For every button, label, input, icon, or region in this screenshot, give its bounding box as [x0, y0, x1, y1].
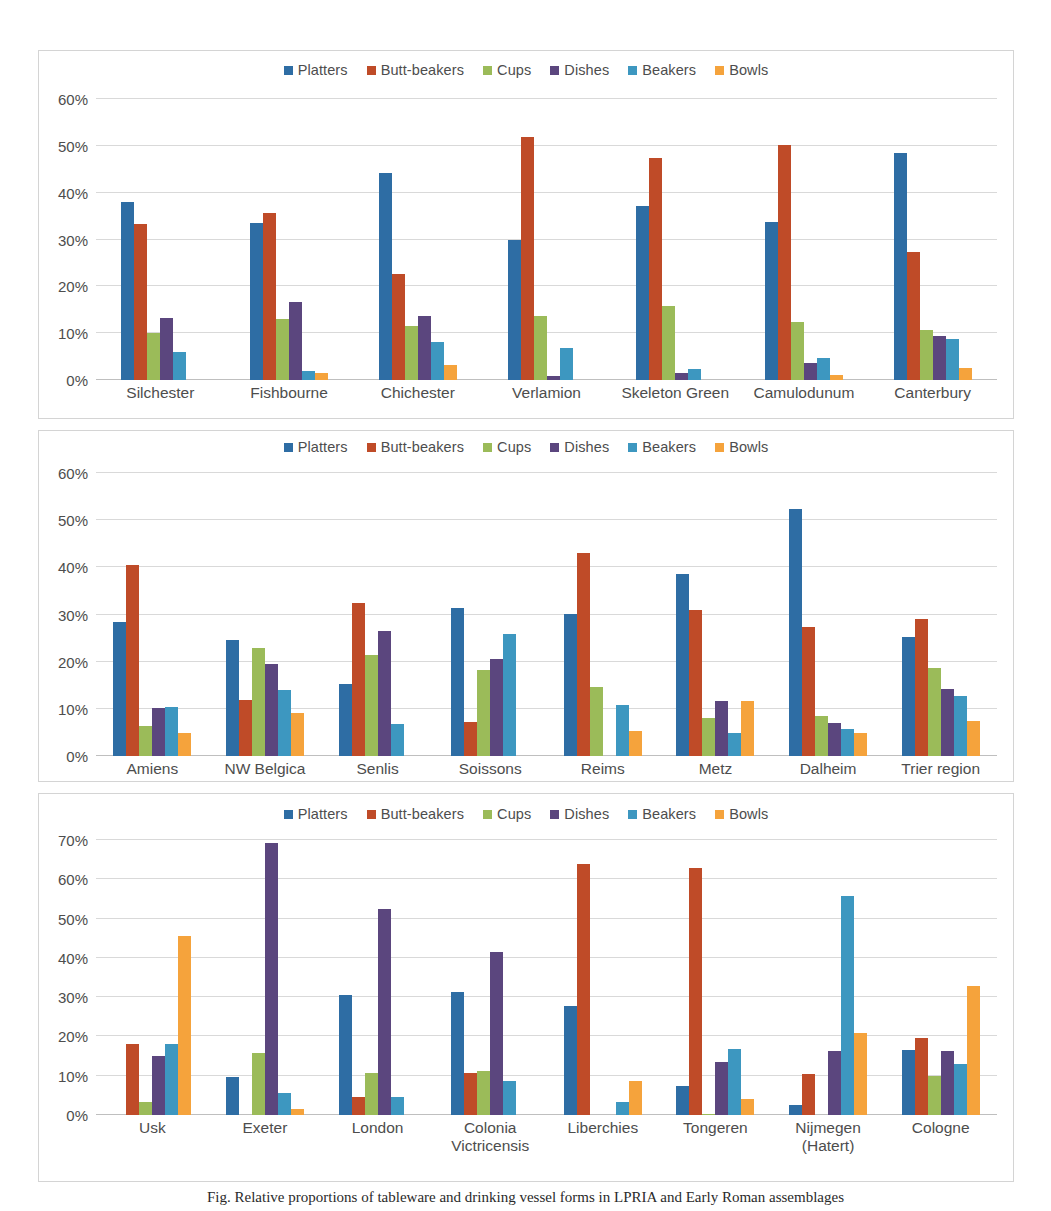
bar-bowls[interactable]	[741, 1099, 754, 1115]
bar-platters[interactable]	[379, 173, 392, 380]
bar-butt-beakers[interactable]	[352, 1097, 365, 1115]
bar-platters[interactable]	[226, 1077, 239, 1115]
bar-butt-beakers[interactable]	[464, 1073, 477, 1115]
bar-platters[interactable]	[636, 206, 649, 380]
bar-platters[interactable]	[250, 223, 263, 380]
bar-beakers[interactable]	[841, 729, 854, 756]
bar-dishes[interactable]	[547, 376, 560, 380]
bar-bowls[interactable]	[315, 373, 328, 380]
bar-beakers[interactable]	[431, 342, 444, 380]
bar-beakers[interactable]	[302, 371, 315, 380]
bar-dishes[interactable]	[828, 723, 841, 756]
bar-bowls[interactable]	[444, 365, 457, 380]
bar-beakers[interactable]	[278, 1093, 291, 1115]
bar-cups[interactable]	[252, 648, 265, 756]
bar-butt-beakers[interactable]	[802, 627, 815, 756]
bar-platters[interactable]	[676, 574, 689, 756]
bar-cups[interactable]	[139, 1102, 152, 1115]
bar-butt-beakers[interactable]	[577, 553, 590, 756]
bar-beakers[interactable]	[560, 348, 573, 380]
bar-platters[interactable]	[226, 640, 239, 756]
bar-beakers[interactable]	[954, 1064, 967, 1115]
bar-bowls[interactable]	[178, 733, 191, 756]
legend-item-platters[interactable]: Platters	[284, 440, 348, 455]
bar-butt-beakers[interactable]	[134, 224, 147, 380]
legend-item-beakers[interactable]: Beakers	[628, 440, 696, 455]
bar-platters[interactable]	[339, 995, 352, 1115]
legend-item-bowls[interactable]: Bowls	[715, 807, 768, 822]
bar-platters[interactable]	[894, 153, 907, 380]
bar-dishes[interactable]	[378, 909, 391, 1115]
bar-dishes[interactable]	[160, 318, 173, 380]
legend-item-cups[interactable]: Cups	[483, 807, 531, 822]
bar-dishes[interactable]	[265, 664, 278, 756]
bar-dishes[interactable]	[715, 701, 728, 756]
bar-cups[interactable]	[590, 687, 603, 756]
bar-butt-beakers[interactable]	[126, 565, 139, 756]
bar-bowls[interactable]	[830, 375, 843, 380]
bar-butt-beakers[interactable]	[352, 603, 365, 756]
bar-beakers[interactable]	[278, 690, 291, 756]
bar-platters[interactable]	[564, 614, 577, 756]
bar-beakers[interactable]	[503, 1081, 516, 1115]
bar-butt-beakers[interactable]	[649, 158, 662, 380]
bar-butt-beakers[interactable]	[521, 137, 534, 380]
bar-bowls[interactable]	[629, 731, 642, 756]
bar-beakers[interactable]	[165, 1044, 178, 1116]
bar-bowls[interactable]	[854, 733, 867, 756]
bar-cups[interactable]	[365, 1073, 378, 1115]
bar-butt-beakers[interactable]	[915, 1038, 928, 1115]
bar-platters[interactable]	[765, 222, 778, 380]
bar-cups[interactable]	[920, 330, 933, 380]
bar-platters[interactable]	[339, 684, 352, 756]
bar-butt-beakers[interactable]	[907, 252, 920, 380]
bar-bowls[interactable]	[959, 368, 972, 380]
legend-item-platters[interactable]: Platters	[284, 807, 348, 822]
bar-dishes[interactable]	[941, 1051, 954, 1115]
bar-platters[interactable]	[564, 1006, 577, 1115]
bar-dishes[interactable]	[378, 631, 391, 756]
bar-beakers[interactable]	[391, 724, 404, 756]
bar-butt-beakers[interactable]	[778, 145, 791, 380]
bar-dishes[interactable]	[675, 373, 688, 380]
legend-item-cups[interactable]: Cups	[483, 440, 531, 455]
bar-bowls[interactable]	[967, 721, 980, 756]
bar-cups[interactable]	[365, 655, 378, 756]
bar-beakers[interactable]	[173, 352, 186, 380]
bar-dishes[interactable]	[152, 708, 165, 756]
bar-butt-beakers[interactable]	[915, 619, 928, 756]
bar-cups[interactable]	[477, 1071, 490, 1115]
legend-item-platters[interactable]: Platters	[284, 63, 348, 78]
legend-item-butt-beakers[interactable]: Butt-beakers	[367, 440, 464, 455]
bar-butt-beakers[interactable]	[577, 864, 590, 1115]
bar-beakers[interactable]	[616, 1102, 629, 1115]
bar-beakers[interactable]	[817, 358, 830, 380]
legend-item-bowls[interactable]: Bowls	[715, 440, 768, 455]
bar-bowls[interactable]	[291, 713, 304, 756]
bar-bowls[interactable]	[967, 986, 980, 1115]
bar-butt-beakers[interactable]	[464, 722, 477, 756]
bar-butt-beakers[interactable]	[802, 1074, 815, 1115]
bar-beakers[interactable]	[688, 369, 701, 380]
legend-item-butt-beakers[interactable]: Butt-beakers	[367, 63, 464, 78]
bar-platters[interactable]	[902, 637, 915, 756]
bar-butt-beakers[interactable]	[392, 274, 405, 380]
bar-beakers[interactable]	[165, 707, 178, 756]
legend-item-beakers[interactable]: Beakers	[628, 63, 696, 78]
bar-butt-beakers[interactable]	[263, 213, 276, 380]
bar-cups[interactable]	[791, 322, 804, 380]
bar-beakers[interactable]	[391, 1097, 404, 1115]
bar-butt-beakers[interactable]	[689, 868, 702, 1115]
bar-beakers[interactable]	[946, 339, 959, 380]
bar-dishes[interactable]	[490, 952, 503, 1115]
bar-dishes[interactable]	[941, 689, 954, 756]
bar-cups[interactable]	[534, 316, 547, 380]
bar-dishes[interactable]	[418, 316, 431, 380]
bar-cups[interactable]	[662, 306, 675, 380]
bar-dishes[interactable]	[933, 336, 946, 380]
legend-item-dishes[interactable]: Dishes	[550, 440, 609, 455]
bar-butt-beakers[interactable]	[689, 610, 702, 756]
bar-platters[interactable]	[789, 1105, 802, 1115]
bar-beakers[interactable]	[841, 896, 854, 1115]
bar-beakers[interactable]	[616, 705, 629, 756]
